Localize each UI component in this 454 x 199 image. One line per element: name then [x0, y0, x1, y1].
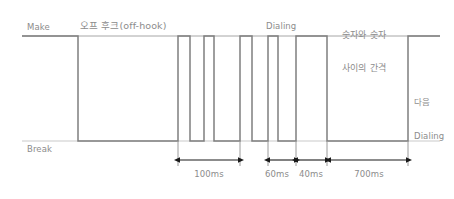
pulse-dialing-timing-diagram: Make Break 오프 후크(off-hook) Dialing 숫자와 숫…	[0, 0, 454, 199]
duration-label-100ms: 100ms	[178, 169, 240, 180]
next-dialing-line-1: 다음	[414, 97, 444, 108]
measure-ticks	[178, 141, 408, 166]
make-level-label: Make	[27, 22, 50, 33]
break-level-label: Break	[27, 144, 52, 155]
digit-gap-line-2: 사이의 간격	[318, 63, 410, 74]
next-dialing-label: 다음 Dialing	[414, 74, 444, 166]
next-dialing-line-2: Dialing	[414, 131, 444, 142]
off-hook-label: 오프 후크(off-hook)	[80, 20, 167, 32]
digit-gap-label: 숫자와 숫자 사이의 간격	[318, 7, 410, 97]
duration-label-40ms: 40ms	[292, 169, 330, 180]
digit-gap-line-1: 숫자와 숫자	[318, 30, 410, 41]
duration-label-700ms: 700ms	[330, 169, 408, 180]
dialing-label: Dialing	[266, 21, 296, 32]
duration-label-60ms: 60ms	[258, 169, 296, 180]
